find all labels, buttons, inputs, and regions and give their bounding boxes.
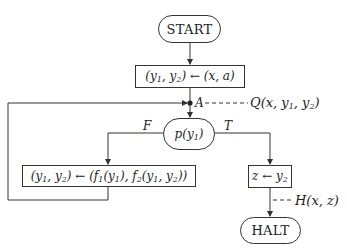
start-node: START <box>158 15 221 43</box>
edge-false-branch <box>108 133 163 164</box>
output-assertion-h: H(x, z) <box>295 194 339 207</box>
edge-true-branch <box>215 133 270 164</box>
halt-node: HALT <box>240 217 301 244</box>
false-branch-label: F <box>143 120 151 132</box>
junction-point-a <box>187 100 192 105</box>
halt-label: HALT <box>251 223 289 238</box>
decision-label: p(y1) <box>175 127 204 142</box>
start-label: START <box>167 22 213 37</box>
invariant-assertion-q: Q(x, y1, y2) <box>250 96 320 111</box>
init-assignment-label: (y1, y2) ← (x, a) <box>145 69 234 84</box>
init-assignment-box: (y1, y2) ← (x, a) <box>135 65 245 88</box>
loop-body-assignment-box: (y1, y2) ← (f1(y1), f2(y1, y2)) <box>22 165 196 187</box>
decision-node: p(y1) <box>163 118 215 150</box>
output-assignment-box: z ← y2 <box>248 165 292 188</box>
flowchart-canvas: START (y1, y2) ← (x, a) A Q(x, y1, y2) p… <box>0 0 347 251</box>
true-branch-label: T <box>224 120 232 132</box>
junction-label-a: A <box>195 97 204 109</box>
output-assignment-label: z ← y2 <box>252 169 288 184</box>
loop-body-assignment-label: (y1, y2) ← (f1(y1), f2(y1, y2)) <box>31 169 188 184</box>
